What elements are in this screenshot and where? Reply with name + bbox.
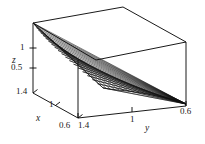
y-tick-label-1: 1 <box>130 115 135 124</box>
z-axis-label: z <box>12 56 16 66</box>
x-tick-label-14: 1.4 <box>16 87 27 96</box>
surface-plot-figure: 1 0.5 z 1.4 1 0.6 x 1.4 1 0.6 y <box>0 0 205 144</box>
y-axis-label: y <box>145 124 149 134</box>
y-tick-label-06: 0.6 <box>180 107 191 116</box>
x-tick-label-1: 1 <box>49 100 54 109</box>
x-axis-ticks <box>33 90 83 119</box>
x-axis-label: x <box>36 114 40 124</box>
bounding-box-wireframe <box>33 7 186 118</box>
plot-canvas <box>0 0 205 144</box>
surface-mesh-generated <box>33 23 186 102</box>
y-tick-label-14: 1.4 <box>78 121 89 130</box>
z-tick-label-1: 1 <box>20 43 25 52</box>
x-tick-label-06: 0.6 <box>59 121 70 130</box>
x-tick-14 <box>33 90 38 94</box>
x-tick-1 <box>56 102 61 106</box>
